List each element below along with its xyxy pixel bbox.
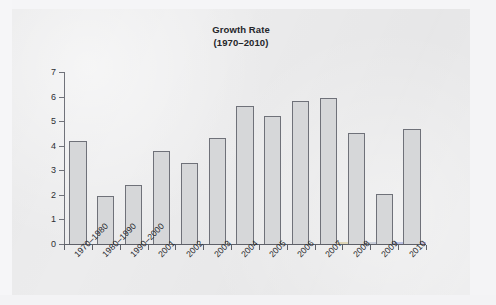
- page-margin-top: [0, 0, 496, 9]
- y-axis-line: [64, 72, 65, 244]
- y-axis-tick-mark: [59, 146, 64, 147]
- page-margin-right: [470, 0, 496, 305]
- y-axis-tick-mark: [59, 219, 64, 220]
- bar-chart-figure: Growth Rate (1970–2010) 01234567 1970–19…: [12, 9, 470, 295]
- scanned-page: Growth Rate (1970–2010) 01234567 1970–19…: [0, 0, 496, 305]
- x-axis-tick-mark: [64, 245, 65, 250]
- plot-area: 01234567 1970–19801980–19901990–20002001…: [28, 68, 426, 244]
- bar: [264, 116, 281, 244]
- y-axis-tick-label: 0: [38, 239, 56, 249]
- bar: [236, 106, 253, 244]
- y-axis-tick-label: 5: [38, 116, 56, 126]
- y-axis-tick-mark: [59, 97, 64, 98]
- chart-subtitle: (1970–2010): [12, 36, 470, 49]
- bar: [348, 133, 365, 244]
- y-axis-tick-label: 1: [38, 214, 56, 224]
- y-axis-tick-label: 7: [38, 67, 56, 77]
- y-axis-tick-mark: [59, 72, 64, 73]
- y-axis-tick-mark: [59, 121, 64, 122]
- bar: [403, 129, 420, 244]
- y-axis-tick-label: 2: [38, 190, 56, 200]
- page-margin-left: [0, 0, 12, 305]
- bar: [320, 98, 337, 244]
- y-axis-tick-label: 3: [38, 165, 56, 175]
- y-axis-tick-label: 4: [38, 141, 56, 151]
- bar: [376, 194, 393, 244]
- bar: [292, 101, 309, 244]
- chart-title: Growth Rate (1970–2010): [12, 23, 470, 49]
- bar: [181, 163, 198, 244]
- bar: [209, 138, 226, 244]
- y-axis-tick-mark: [59, 170, 64, 171]
- chart-title-main: Growth Rate: [212, 24, 270, 35]
- bar: [69, 141, 86, 244]
- page-margin-bottom: [0, 295, 496, 305]
- y-axis-tick-mark: [59, 195, 64, 196]
- y-axis-tick-label: 6: [38, 92, 56, 102]
